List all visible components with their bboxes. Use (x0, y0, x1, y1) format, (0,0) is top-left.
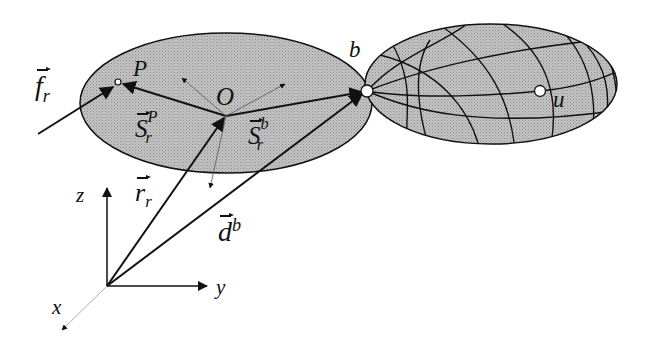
label-s-rp: SPr (135, 115, 152, 147)
label-axis-y: y (216, 277, 225, 298)
label-r-r: rr (135, 180, 152, 211)
label-d-b: db (218, 216, 241, 246)
label-joint-b: b (349, 38, 361, 61)
label-origin-o: O (216, 84, 234, 109)
right-body (365, 22, 620, 150)
label-force: fr (35, 72, 50, 105)
x-axis (62, 286, 107, 330)
label-axis-z: z (76, 185, 84, 206)
label-point-u: u (553, 88, 565, 111)
label-s-rb: Sbr (248, 122, 263, 154)
label-axis-x: x (52, 297, 61, 318)
joint-b (361, 85, 373, 97)
point-p (115, 79, 121, 85)
point-u (535, 86, 546, 97)
diagram-canvas (0, 0, 645, 356)
label-point-p: P (133, 57, 147, 80)
